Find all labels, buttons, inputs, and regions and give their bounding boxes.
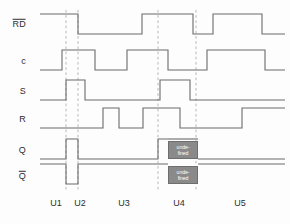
timing-diagram-figure: RD c S R Q Q unde- fined unde- fined U1 … — [0, 0, 290, 224]
interval-label-u1: U1 — [50, 198, 62, 208]
interval-label-u4: U4 — [173, 198, 185, 208]
waveform-q-path-left — [40, 139, 168, 159]
waveform-c-path — [40, 50, 285, 70]
signal-label-qbar-text: Q — [19, 171, 26, 181]
waveform-c — [40, 50, 285, 70]
interval-label-u5: U5 — [234, 198, 246, 208]
signal-label-c-text: c — [21, 56, 26, 66]
interval-label-u2: U2 — [74, 198, 86, 208]
undefined-box-q: unde- fined — [168, 141, 198, 159]
signal-label-r-text: R — [19, 114, 26, 124]
waveform-s-path — [40, 80, 285, 100]
signal-label-qbar: Q — [19, 171, 26, 181]
waveform-rd — [40, 14, 285, 34]
timing-diagram-canvas — [0, 0, 290, 224]
undefined-box-qbar-line2: fined — [178, 175, 189, 181]
signal-label-c: c — [21, 56, 26, 66]
signal-label-q: Q — [19, 145, 26, 155]
signal-label-rd-text: RD — [13, 19, 26, 29]
undefined-box-q-line2: fined — [178, 150, 189, 156]
waveform-s — [40, 80, 285, 100]
waveform-q — [40, 139, 285, 159]
signal-label-r: R — [19, 114, 26, 124]
signal-label-s: S — [20, 86, 26, 96]
interval-label-u3: U3 — [118, 198, 130, 208]
signal-label-q-text: Q — [19, 145, 26, 155]
waveform-r — [40, 108, 285, 128]
waveform-qbar-path-left — [40, 164, 168, 184]
waveform-r-path — [40, 108, 285, 128]
undefined-box-qbar: unde- fined — [168, 166, 198, 184]
signal-label-s-text: S — [20, 86, 26, 96]
signal-label-rd: RD — [13, 19, 26, 29]
waveform-qbar — [40, 164, 285, 184]
waveform-rd-path — [40, 14, 285, 34]
